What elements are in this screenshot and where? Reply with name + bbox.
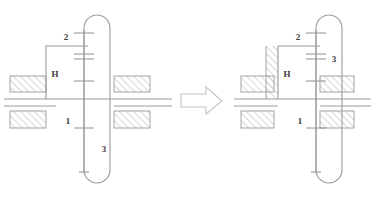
left-bearing-upper-right [114,76,150,92]
gear-train-schematic: 2 H 1 3 [0,0,375,200]
right-label-sun-gear: 1 [298,116,303,126]
left-bearing-lower-left [10,111,46,128]
left-label-carrier: H [51,69,58,79]
transformation-arrow [181,87,222,114]
right-diagram: 2 H 1 3 [234,15,371,183]
left-label-planet-gear: 2 [64,32,69,42]
right-shaft-axis [234,99,371,106]
right-bearing-upper-right [320,76,354,92]
left-shaft-axis [4,99,172,106]
left-bearing-upper-left [10,76,46,92]
right-label-planet-gear: 2 [296,32,301,42]
left-diagram: 2 H 1 3 [4,15,172,183]
left-label-sun-gear: 1 [66,116,71,126]
left-label-ring-gear: 3 [102,144,107,154]
right-label-carrier: H [283,69,290,79]
right-bearing-lower-left [241,111,274,128]
right-label-ring-gear: 3 [332,54,337,64]
diagram-root: 2 H 1 3 [0,0,375,200]
right-bearing-lower-right [320,111,354,128]
left-bearing-lower-right [114,111,150,128]
